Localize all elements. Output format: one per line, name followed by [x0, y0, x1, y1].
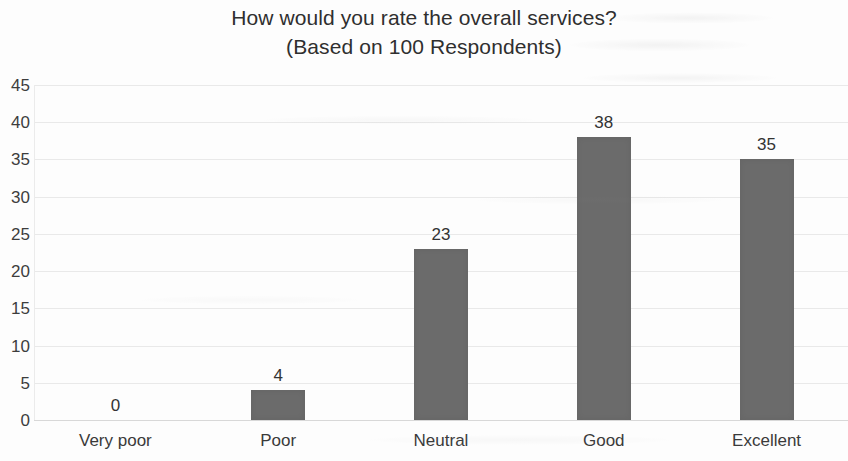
x-tick-label-neutral: Neutral — [360, 430, 523, 452]
y-tick-label-45: 45 — [0, 77, 30, 94]
y-tick-label-25: 25 — [0, 226, 30, 243]
bar-good[interactable] — [577, 137, 631, 420]
bar-value-label-excellent: 35 — [757, 136, 776, 153]
y-axis-tick-labels: 454035302520151050 — [0, 0, 30, 461]
chart-title-block: How would you rate the overall services?… — [0, 3, 848, 61]
x-axis-line — [34, 420, 848, 421]
bar-neutral[interactable] — [414, 249, 468, 420]
chart-title: How would you rate the overall services? — [0, 3, 848, 32]
bar-value-label-very-poor: 0 — [111, 397, 120, 414]
bar-poor[interactable] — [251, 390, 305, 420]
bar-slot-0: 0 — [34, 85, 197, 420]
bar-slot-2: 23 — [360, 85, 523, 420]
y-tick-label-40: 40 — [0, 114, 30, 131]
y-tick-label-0: 0 — [0, 412, 30, 429]
bar-excellent[interactable] — [740, 159, 794, 420]
chart-page: How would you rate the overall services?… — [0, 0, 848, 461]
x-tick-label-poor: Poor — [197, 430, 360, 452]
bar-slot-4: 35 — [685, 85, 848, 420]
y-tick-label-5: 5 — [0, 375, 30, 392]
chart-subtitle: (Based on 100 Respondents) — [0, 32, 848, 61]
y-tick-label-35: 35 — [0, 151, 30, 168]
bar-value-label-neutral: 23 — [432, 226, 451, 243]
x-tick-label-excellent: Excellent — [685, 430, 848, 452]
y-tick-label-20: 20 — [0, 263, 30, 280]
y-tick-label-10: 10 — [0, 338, 30, 355]
x-tick-label-good: Good — [522, 430, 685, 452]
bar-slot-1: 4 — [197, 85, 360, 420]
bars-layer: 04233835 — [34, 85, 848, 420]
y-tick-label-30: 30 — [0, 189, 30, 206]
bar-value-label-poor: 4 — [273, 367, 282, 384]
bar-value-label-good: 38 — [594, 114, 613, 131]
y-tick-label-15: 15 — [0, 300, 30, 317]
x-axis-tick-labels: Very poorPoorNeutralGoodExcellent — [34, 430, 848, 456]
bar-slot-3: 38 — [522, 85, 685, 420]
x-tick-label-very-poor: Very poor — [34, 430, 197, 452]
